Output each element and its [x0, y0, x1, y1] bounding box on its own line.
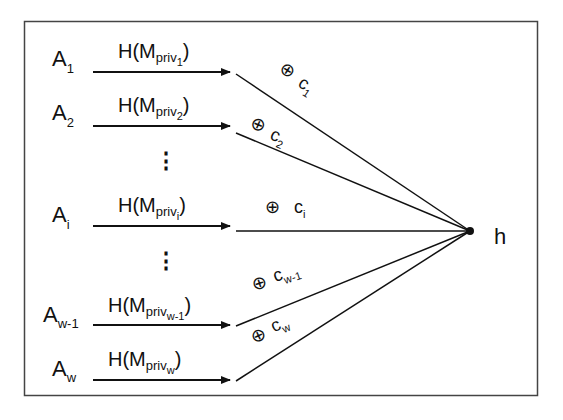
sender-label: Aw-1 — [43, 302, 79, 331]
fan-line — [236, 231, 470, 381]
hash-label: H(Mprivw-1) — [108, 294, 191, 322]
hash-label: H(Mprivw) — [108, 348, 181, 376]
output-label: h — [494, 224, 506, 249]
sender-label: A2 — [52, 100, 74, 130]
sender-label: Aw — [52, 356, 77, 385]
hash-label: H(Mpriv1) — [118, 40, 190, 68]
xor-icon: ⊕ — [247, 112, 269, 136]
key-label: c1 — [293, 72, 318, 100]
xor-icon: ⊕ — [265, 197, 280, 217]
fan-line — [236, 231, 470, 326]
output-node — [466, 227, 474, 235]
key-label: ci — [294, 197, 305, 220]
row-2: A2 H(Mpriv2) ⊕ c2 — [52, 94, 470, 231]
xor-icon: ⊕ — [247, 323, 269, 347]
sender-label: Ai — [52, 202, 70, 232]
hash-label: H(Mprivi) — [118, 194, 186, 222]
xor-icon: ⊕ — [276, 58, 299, 83]
sender-label: A1 — [52, 46, 74, 76]
row-i: Ai H(Mprivi) ⊕ ci — [52, 194, 470, 232]
diagram-canvas: A1 H(Mpriv1) ⊕ c1 A2 H(Mpriv2) ⊕ c2 ⋮ Ai… — [0, 0, 563, 420]
hash-label: H(Mpriv2) — [118, 94, 190, 122]
row-w-1: Aw-1 H(Mprivw-1) ⊕ cw-1 — [43, 231, 470, 331]
key-label: cw-1 — [270, 259, 303, 289]
key-label: cw — [267, 311, 292, 339]
ellipsis-icon: ⋮ — [155, 248, 177, 273]
ellipsis-icon: ⋮ — [155, 148, 177, 173]
xor-icon: ⊕ — [249, 271, 269, 295]
